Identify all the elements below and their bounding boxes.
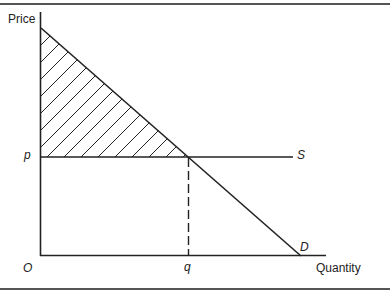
demand-label: D bbox=[300, 240, 309, 254]
x-axis-label: Quantity bbox=[316, 261, 361, 275]
y-axis-label: Price bbox=[8, 12, 35, 26]
quantity-tick-label: q bbox=[184, 260, 191, 274]
origin-label: O bbox=[23, 261, 32, 275]
supply-label: S bbox=[297, 148, 305, 162]
consumer-surplus-hatching bbox=[34, 25, 315, 170]
price-tick-label: p bbox=[24, 148, 31, 162]
supply-demand-chart bbox=[0, 0, 390, 291]
demand-curve bbox=[41, 28, 301, 256]
